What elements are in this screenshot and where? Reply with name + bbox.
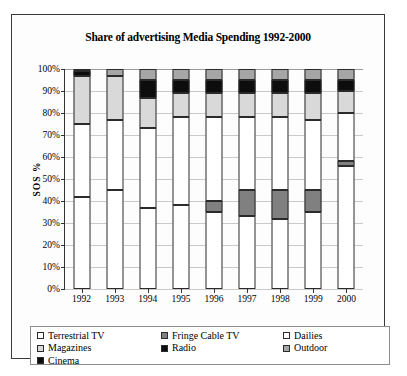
bar-segment[interactable] — [205, 212, 222, 289]
stacked-bar[interactable] — [205, 69, 222, 289]
stacked-bar[interactable] — [139, 69, 156, 289]
legend-item-outdoor[interactable]: Outdoor — [283, 343, 327, 354]
x-tick-label: 1997 — [238, 294, 257, 304]
bar-segment[interactable] — [106, 69, 123, 76]
legend-item-terrestrial-tv[interactable]: Terrestrial TV — [37, 330, 105, 341]
stacked-bar[interactable] — [239, 69, 256, 289]
bar-slot: 1998 — [264, 69, 297, 289]
legend-swatch-icon — [161, 345, 168, 352]
bar-segment[interactable] — [73, 71, 90, 75]
stacked-bar[interactable] — [272, 69, 289, 289]
x-tick-label: 1994 — [138, 294, 157, 304]
bar-segment[interactable] — [205, 201, 222, 212]
x-tick-label: 1993 — [105, 294, 124, 304]
chart-frame: Share of advertising Media Spending 1992… — [11, 14, 385, 359]
bar-segment[interactable] — [172, 93, 189, 117]
y-tick-label: 50% — [43, 174, 60, 184]
bar-slot: 1994 — [131, 69, 164, 289]
bar-segment[interactable] — [205, 93, 222, 117]
bar-segment[interactable] — [272, 80, 289, 93]
bar-segment[interactable] — [139, 69, 156, 80]
stacked-bar[interactable] — [172, 69, 189, 289]
bar-segment[interactable] — [239, 80, 256, 93]
bar-segment[interactable] — [73, 124, 90, 197]
stacked-bar[interactable] — [73, 69, 90, 289]
x-tick-mark — [181, 289, 182, 293]
bar-segment[interactable] — [73, 76, 90, 124]
bar-segment[interactable] — [205, 117, 222, 201]
legend-item-cinema[interactable]: Cinema — [37, 355, 105, 366]
bar-slot: 1999 — [297, 69, 330, 289]
bar-segment[interactable] — [139, 208, 156, 289]
y-tick-label: 60% — [43, 152, 60, 162]
bar-segment[interactable] — [272, 117, 289, 190]
legend-swatch-icon — [37, 345, 44, 352]
bar-segment[interactable] — [338, 161, 355, 165]
chart-title: Share of advertising Media Spending 1992… — [12, 31, 384, 43]
legend-item-magazines[interactable]: Magazines — [37, 343, 105, 354]
legend-swatch-icon — [283, 345, 290, 352]
bar-segment[interactable] — [272, 219, 289, 289]
x-tick-mark — [346, 289, 347, 293]
bar-segment[interactable] — [272, 69, 289, 80]
bar-segment[interactable] — [172, 69, 189, 80]
bar-segment[interactable] — [305, 212, 322, 289]
bar-segment[interactable] — [205, 69, 222, 80]
bar-segment[interactable] — [272, 93, 289, 117]
y-tick-label: 20% — [43, 240, 60, 250]
bar-segment[interactable] — [139, 128, 156, 207]
bar-segment[interactable] — [239, 190, 256, 216]
legend-label: Cinema — [48, 356, 79, 366]
x-tick-label: 1999 — [304, 294, 323, 304]
x-tick-mark — [148, 289, 149, 293]
legend-item-dailies[interactable]: Dailies — [283, 330, 327, 341]
bar-slot: 1997 — [231, 69, 264, 289]
x-tick-mark — [280, 289, 281, 293]
bar-segment[interactable] — [205, 80, 222, 93]
legend-label: Radio — [172, 343, 196, 353]
bar-segment[interactable] — [272, 190, 289, 219]
legend-column: Fringe Cable TVRadio — [161, 330, 240, 355]
bar-segment[interactable] — [239, 216, 256, 289]
bar-segment[interactable] — [172, 205, 189, 289]
bar-segment[interactable] — [106, 76, 123, 120]
bar-segment[interactable] — [305, 120, 322, 190]
stacked-bar[interactable] — [106, 69, 123, 289]
legend-label: Magazines — [48, 343, 91, 353]
bar-segment[interactable] — [106, 190, 123, 289]
bar-segment[interactable] — [305, 93, 322, 119]
bar-segment[interactable] — [239, 93, 256, 117]
bar-segment[interactable] — [73, 69, 90, 71]
legend-label: Fringe Cable TV — [172, 331, 240, 341]
stacked-bar[interactable] — [338, 69, 355, 289]
x-tick-label: 1996 — [204, 294, 223, 304]
bar-segment[interactable] — [172, 80, 189, 93]
bar-segment[interactable] — [338, 69, 355, 80]
bar-segment[interactable] — [172, 117, 189, 205]
legend-swatch-icon — [37, 357, 44, 364]
bar-segment[interactable] — [338, 91, 355, 113]
bar-segment[interactable] — [338, 80, 355, 91]
bar-segment[interactable] — [239, 117, 256, 190]
legend-item-fringe-cable-tv[interactable]: Fringe Cable TV — [161, 330, 240, 341]
bar-segment[interactable] — [338, 166, 355, 289]
bar-segment[interactable] — [338, 113, 355, 161]
legend-item-radio[interactable]: Radio — [161, 343, 240, 354]
legend-label: Terrestrial TV — [48, 331, 105, 341]
bar-segment[interactable] — [239, 69, 256, 80]
bar-segment[interactable] — [305, 69, 322, 80]
bar-segment[interactable] — [73, 197, 90, 289]
y-tick-label: 30% — [43, 218, 60, 228]
bar-segment[interactable] — [139, 80, 156, 98]
x-tick-label: 1998 — [271, 294, 290, 304]
y-tick-label: 80% — [43, 108, 60, 118]
bar-segment[interactable] — [139, 98, 156, 129]
x-tick-mark — [214, 289, 215, 293]
stacked-bar[interactable] — [305, 69, 322, 289]
bar-segment[interactable] — [106, 120, 123, 190]
plot-area: SOS % 0%10%20%30%40%50%60%70%80%90%100% … — [64, 69, 363, 290]
bar-segment[interactable] — [305, 190, 322, 212]
bar-segment[interactable] — [305, 80, 322, 93]
bar-slot: 1996 — [197, 69, 230, 289]
x-tick-label: 1992 — [72, 294, 91, 304]
